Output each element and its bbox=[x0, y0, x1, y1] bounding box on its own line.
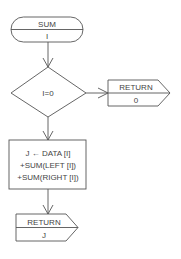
process-line-1: J ← DATA [I] bbox=[25, 149, 70, 158]
return-zero-value: 0 bbox=[134, 96, 139, 105]
return-j-title: RETURN bbox=[27, 218, 61, 227]
decision-condition: I=0 bbox=[42, 89, 54, 98]
terminator-title: SUM bbox=[38, 20, 56, 29]
process-line-3: +SUM(RIGHT [I]) bbox=[17, 173, 79, 182]
flowchart: SUM I I=0 RETURN 0 J ← DATA [I] +SUM(LEF… bbox=[0, 0, 181, 259]
process-line-2: +SUM(LEFT [I]) bbox=[20, 161, 76, 170]
return-zero-title: RETURN bbox=[119, 83, 153, 92]
return-j-value: J bbox=[42, 231, 46, 240]
terminator-param: I bbox=[46, 32, 48, 41]
